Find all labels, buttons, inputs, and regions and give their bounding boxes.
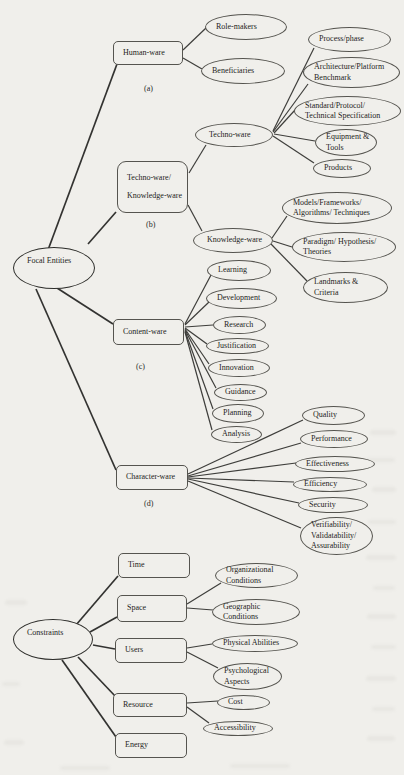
node-planning: Planning bbox=[212, 404, 264, 423]
node-paradigm-hypothesis: Paradigm/ Hypothesis/ Theories bbox=[292, 232, 396, 262]
node-standard-protocol-spec: Standard/Protocol/ Technical Specificati… bbox=[294, 96, 401, 126]
node-guidance: Guidance bbox=[214, 384, 267, 401]
node-constraints: Constraints bbox=[13, 619, 93, 660]
node-learning: Learning bbox=[207, 260, 271, 281]
node-users: Users bbox=[115, 638, 187, 663]
node-justification: Justification bbox=[206, 338, 269, 354]
node-cost: Cost bbox=[217, 695, 270, 710]
group-label-d: (d) bbox=[144, 499, 153, 508]
node-products: Products bbox=[313, 159, 371, 178]
node-human-ware: Human-ware bbox=[113, 41, 183, 65]
node-techno-ware: Techno-ware bbox=[195, 123, 273, 147]
node-effectiveness: Effectiveness bbox=[295, 456, 375, 472]
node-knowledge-ware: Knowledge-ware bbox=[193, 228, 273, 253]
node-research: Research bbox=[213, 316, 266, 334]
node-time: Time bbox=[118, 553, 190, 578]
node-innovation: Innovation bbox=[208, 359, 270, 377]
node-role-makers: Role-makers bbox=[205, 14, 287, 40]
node-beneficiaries: Beneficiaries bbox=[201, 58, 285, 84]
node-space: Space bbox=[117, 595, 187, 622]
group-label-c: (c) bbox=[136, 362, 145, 371]
scanned-diagram-page: Focal Entities Constraints Human-ware Ro… bbox=[0, 0, 404, 775]
node-techno-knowledge-ware: Techno-ware/ Knowledge-ware bbox=[117, 161, 188, 213]
node-accessibility: Accessibility bbox=[203, 721, 273, 736]
node-geographic-conditions: Geographic Conditions bbox=[212, 599, 300, 625]
group-label-a: (a) bbox=[144, 84, 153, 93]
node-energy: Energy bbox=[115, 733, 187, 758]
node-character-ware: Character-ware bbox=[116, 465, 188, 490]
node-verifiability: Verifiability/ Validatability/ Assurabil… bbox=[300, 517, 373, 555]
node-performance: Performance bbox=[300, 430, 368, 448]
node-landmarks-criteria: Landmarks & Criteria bbox=[303, 272, 388, 303]
node-resource: Resource bbox=[113, 693, 187, 717]
node-content-ware: Content-ware bbox=[113, 319, 184, 345]
node-organizational-conditions: Organizational Conditions bbox=[215, 563, 298, 588]
group-label-b: (b) bbox=[146, 220, 155, 229]
node-physical-abilities: Physical Abilities bbox=[212, 635, 298, 652]
node-development: Development bbox=[206, 288, 277, 309]
node-efficiency: Efficiency bbox=[293, 477, 367, 492]
node-psychological-aspects: Psychological Aspects bbox=[213, 663, 282, 690]
node-process-phase: Process/phase bbox=[308, 27, 391, 52]
node-architecture-platform-benchmark: Architecture/Platform Benchmark bbox=[303, 57, 400, 88]
node-focal-entities: Focal Entities bbox=[13, 247, 95, 289]
node-analysis: Analysis bbox=[211, 426, 262, 443]
node-equipment-tools: Equipment & Tools bbox=[315, 129, 377, 156]
node-models-frameworks: Models/Frameworks/ Algorithms/ Technique… bbox=[282, 192, 392, 224]
node-security: Security bbox=[298, 497, 368, 513]
node-quality: Quality bbox=[302, 406, 365, 425]
